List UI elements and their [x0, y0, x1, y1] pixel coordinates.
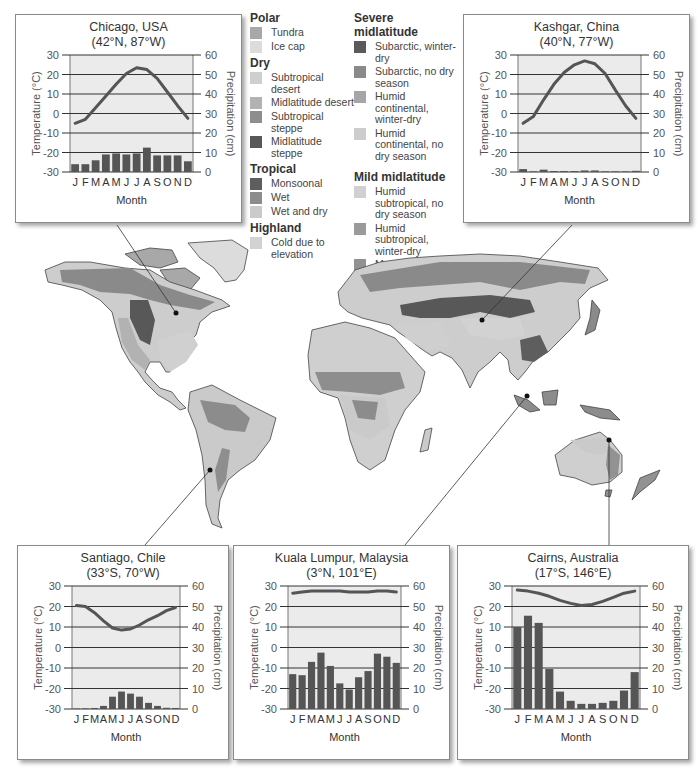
- left-axis-tick: -10: [43, 127, 59, 139]
- left-axis-tick: 20: [47, 69, 59, 81]
- precipitation-bar: [567, 701, 575, 709]
- chart-panel-chicago: Chicago, USA(42°N, 87°W)306020501040030-…: [15, 14, 242, 223]
- month-tick: F: [299, 713, 306, 725]
- month-tick: F: [82, 176, 89, 188]
- precipitation-bar: [545, 669, 553, 709]
- legend-label: Wet: [271, 192, 289, 204]
- legend-swatch: [354, 66, 366, 78]
- right-axis-tick: 20: [413, 662, 425, 674]
- legend-swatch: [250, 206, 262, 218]
- legend-label: Monsoonal: [271, 178, 322, 190]
- month-tick: J: [290, 713, 296, 725]
- left-axis-tick: -10: [485, 662, 501, 674]
- x-axis-label: Month: [116, 194, 147, 206]
- legend-item: Ice cap: [250, 41, 355, 53]
- chart-title: Kashgar, China: [534, 20, 620, 34]
- chart-title: Kuala Lumpur, Malaysia: [275, 551, 408, 565]
- climate-chart: Santiago, Chile(33°S, 70°W)3060205010400…: [18, 546, 228, 759]
- left-axis-label: Temperature (°C): [248, 605, 260, 689]
- climate-chart: Kashgar, China(40°N, 77°W)30602050104003…: [464, 15, 689, 222]
- precipitation-bar: [581, 170, 589, 172]
- right-axis-tick: 20: [652, 662, 664, 674]
- left-axis-tick: -30: [491, 166, 507, 178]
- chart-panel-kuala-lumpur: Kuala Lumpur, Malaysia(3°N, 101°E)306020…: [233, 545, 450, 760]
- month-tick: F: [530, 176, 537, 188]
- left-axis-tick: 0: [55, 642, 61, 654]
- right-axis-tick: 10: [205, 147, 217, 159]
- right-axis-tick: 30: [413, 642, 425, 654]
- right-axis-tick: 40: [653, 88, 665, 100]
- legend-swatch: [354, 128, 366, 140]
- left-axis-tick: -30: [261, 703, 277, 715]
- month-tick: J: [74, 713, 80, 725]
- right-axis-tick: 40: [652, 621, 664, 633]
- precipitation-bar: [102, 154, 110, 172]
- right-axis-tick: 40: [192, 621, 204, 633]
- legend-swatch: [250, 192, 262, 204]
- precipitation-bar: [632, 171, 640, 172]
- right-axis-tick: 60: [653, 49, 665, 61]
- month-tick: N: [174, 176, 182, 188]
- legend-swatch: [354, 41, 366, 53]
- left-axis-tick: -10: [45, 662, 61, 674]
- right-axis-label: Precipitation (cm): [225, 71, 237, 157]
- precipitation-bar: [184, 161, 192, 172]
- left-axis-tick: 10: [495, 88, 507, 100]
- legend-item: Monsoonal: [250, 178, 355, 190]
- month-tick: M: [108, 713, 117, 725]
- precipitation-bar: [145, 703, 152, 709]
- legend-label: Subtropical steppe: [271, 111, 355, 134]
- precipitation-bar: [317, 653, 324, 709]
- right-axis-tick: 20: [653, 127, 665, 139]
- legend-item: Humid continental, winter-dry: [354, 91, 459, 126]
- precipitation-bar: [560, 171, 568, 172]
- left-axis-tick: 30: [489, 580, 501, 592]
- precipitation-bar: [577, 704, 585, 709]
- month-tick: M: [560, 176, 569, 188]
- legend-label: Humid subtropical, no dry season: [375, 186, 459, 221]
- month-tick: M: [539, 176, 548, 188]
- marker-kuala-lumpur: [525, 394, 530, 399]
- precipitation-bar: [109, 697, 116, 709]
- precipitation-bar: [550, 171, 558, 172]
- month-tick: N: [383, 713, 391, 725]
- month-tick: J: [572, 176, 578, 188]
- right-axis-tick: 0: [652, 703, 658, 715]
- precipitation-bar: [91, 708, 98, 709]
- precipitation-bar: [92, 160, 100, 172]
- precipitation-bar: [519, 169, 527, 172]
- month-tick: J: [582, 176, 588, 188]
- month-tick: J: [515, 713, 521, 725]
- precipitation-bar: [524, 616, 532, 709]
- legend-swatch: [250, 136, 262, 148]
- x-axis-label: Month: [561, 731, 592, 743]
- legend-swatch: [250, 111, 262, 123]
- right-axis-tick: 50: [652, 601, 664, 613]
- right-axis-tick: 60: [652, 580, 664, 592]
- right-axis-tick: 10: [653, 147, 665, 159]
- legend-item: Subtropical desert: [250, 72, 355, 95]
- month-tick: O: [373, 713, 382, 725]
- precipitation-bar: [122, 154, 130, 172]
- precipitation-bar: [611, 171, 619, 172]
- right-axis-tick: 50: [413, 601, 425, 613]
- legend-item: Subarctic, no dry season: [354, 66, 459, 89]
- month-tick: O: [153, 713, 162, 725]
- right-axis-tick: 50: [653, 69, 665, 81]
- right-axis-label: Precipitation (cm): [673, 71, 685, 157]
- climate-chart: Kuala Lumpur, Malaysia(3°N, 101°E)306020…: [234, 546, 449, 759]
- x-axis-label: Month: [564, 194, 595, 206]
- chart-panel-santiago: Santiago, Chile(33°S, 70°W)3060205010400…: [17, 545, 229, 760]
- left-axis-tick: -30: [43, 166, 59, 178]
- precipitation-bar: [601, 171, 609, 172]
- precipitation-bar: [631, 672, 639, 709]
- precipitation-bar: [136, 697, 143, 709]
- climate-legend: PolarTundraIce capDrySubtropical desertM…: [250, 8, 455, 223]
- chart-coordinates: (40°N, 77°W): [540, 35, 614, 49]
- right-axis-tick: 40: [205, 88, 217, 100]
- right-axis-tick: 60: [192, 580, 204, 592]
- precipitation-bar: [374, 654, 381, 709]
- right-axis-tick: 30: [652, 642, 664, 654]
- month-tick: S: [145, 713, 152, 725]
- legend-swatch: [250, 97, 262, 109]
